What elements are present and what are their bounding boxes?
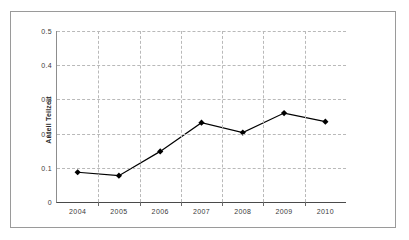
x-tick-mark-3 — [181, 202, 182, 206]
scanned-page: Anteil Teilzeit 00.10.20.30.40.520042005… — [0, 0, 409, 240]
x-tick-mark-4 — [222, 202, 223, 206]
data-point-2010 — [322, 119, 328, 125]
x-tick-label-2009: 2009 — [275, 208, 292, 215]
gridline-y-0.4 — [57, 65, 346, 66]
data-point-2005 — [116, 173, 122, 179]
gridline-y-0.3 — [57, 99, 346, 100]
y-tick-label-0: 0 — [48, 199, 52, 206]
data-point-2004 — [75, 169, 81, 175]
gridline-x-4 — [222, 31, 223, 202]
chart-frame: Anteil Teilzeit 00.10.20.30.40.520042005… — [10, 11, 396, 228]
line-chart: Anteil Teilzeit 00.10.20.30.40.520042005… — [11, 12, 395, 227]
gridline-x-3 — [181, 31, 182, 202]
gridline-y-0.1 — [57, 168, 346, 169]
x-tick-label-2007: 2007 — [193, 208, 210, 215]
x-tick-label-2005: 2005 — [110, 208, 127, 215]
x-tick-label-2004: 2004 — [69, 208, 86, 215]
gridline-x-5 — [263, 31, 264, 202]
scan-edge — [0, 234, 409, 240]
plot-area: 00.10.20.30.40.5200420052006200720082009… — [56, 31, 346, 203]
y-tick-label-0.5: 0.5 — [41, 28, 52, 35]
x-tick-label-2010: 2010 — [317, 208, 334, 215]
y-tick-label-0.4: 0.4 — [41, 62, 52, 69]
data-point-2008 — [240, 129, 246, 135]
x-tick-mark-1 — [98, 202, 99, 206]
x-tick-label-2008: 2008 — [234, 208, 251, 215]
series-line-anteil-teilzeit — [57, 31, 346, 202]
gridline-y-0.5 — [57, 31, 346, 32]
y-tick-label-0.3: 0.3 — [41, 96, 52, 103]
gridline-y-0.2 — [57, 134, 346, 135]
x-tick-label-2006: 2006 — [152, 208, 169, 215]
data-point-2009 — [281, 110, 287, 116]
y-tick-label-0.1: 0.1 — [41, 164, 52, 171]
x-tick-mark-5 — [263, 202, 264, 206]
gridline-x-6 — [305, 31, 306, 202]
gridline-x-2 — [140, 31, 141, 202]
x-tick-mark-6 — [305, 202, 306, 206]
x-tick-mark-2 — [140, 202, 141, 206]
y-tick-label-0.2: 0.2 — [41, 130, 52, 137]
gridline-x-1 — [98, 31, 99, 202]
